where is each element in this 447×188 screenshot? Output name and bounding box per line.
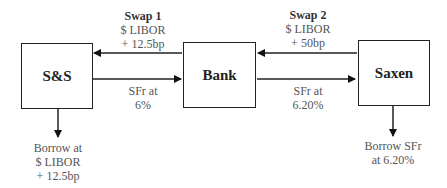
node-saxen-label: Saxen — [375, 65, 413, 82]
swap1-return-label: SFr at 6% — [103, 84, 183, 112]
node-bank-label: Bank — [202, 67, 236, 84]
node-saxen: Saxen — [358, 40, 430, 106]
swap2-title: Swap 2 — [268, 8, 348, 22]
ss-borrow-line3: + 12.5bp — [18, 169, 98, 183]
swap1-title: Swap 1 — [103, 9, 183, 23]
swap2-line1: $ LIBOR — [268, 22, 348, 36]
saxen-borrow-line1: Borrow SFr — [353, 139, 433, 153]
swap1-line2: + 12.5bp — [103, 37, 183, 51]
swap1-label: Swap 1 $ LIBOR + 12.5bp — [103, 9, 183, 51]
node-ss: S&S — [21, 43, 93, 109]
swap1-return-line1: SFr at — [103, 84, 183, 98]
saxen-borrow-line2: at 6.20% — [353, 153, 433, 167]
swap2-return-label: SFr at 6.20% — [268, 84, 348, 112]
swap1-return-line2: 6% — [103, 98, 183, 112]
saxen-borrow-label: Borrow SFr at 6.20% — [353, 139, 433, 167]
ss-borrow-line1: Borrow at — [18, 141, 98, 155]
swap2-return-line2: 6.20% — [268, 98, 348, 112]
swap2-line2: + 50bp — [268, 36, 348, 50]
ss-borrow-line2: $ LIBOR — [18, 155, 98, 169]
swap2-label: Swap 2 $ LIBOR + 50bp — [268, 8, 348, 50]
node-bank: Bank — [183, 42, 256, 108]
swap2-return-line1: SFr at — [268, 84, 348, 98]
ss-borrow-label: Borrow at $ LIBOR + 12.5bp — [18, 141, 98, 183]
swap1-line1: $ LIBOR — [103, 23, 183, 37]
node-ss-label: S&S — [42, 68, 71, 85]
